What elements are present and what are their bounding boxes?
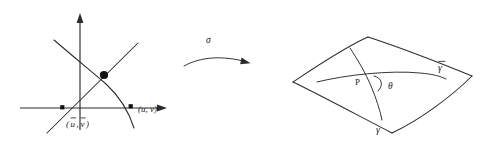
intersection-point (100, 71, 108, 79)
figure-canvas: ( u , v ) (u, v) σ (0, 0, 492, 143)
label-u-v: (u, v) (138, 104, 157, 114)
label-ubar-vbar-second: v (81, 119, 85, 129)
label-ubar-vbar-close: ) (85, 119, 89, 129)
label-ubar-vbar-first: u (70, 119, 75, 129)
label-ubar-vbar-comma: , (77, 119, 79, 129)
patch-edge-top-right (368, 37, 472, 76)
label-gamma-text: γ (376, 124, 381, 135)
patch-edge-bottom-right (392, 76, 472, 133)
parameter-plane: ( u , v ) (u, v) (20, 13, 167, 133)
map-arrow-curve (184, 58, 247, 66)
label-gamma-bar: γ (438, 61, 445, 73)
sigma-map-arrow: σ (184, 35, 251, 66)
curve-ubar-vbar (47, 43, 138, 133)
point-p-label: P (355, 77, 360, 87)
marker-ubar-vbar (60, 105, 64, 109)
label-ubar-vbar-open: ( (66, 119, 70, 129)
label-ubar-vbar: ( u , v ) (66, 118, 89, 129)
map-arrow-head (240, 57, 250, 64)
math-figure: ( u , v ) (u, v) σ (0, 0, 492, 143)
angle-arc (374, 76, 381, 91)
angle-theta-label: θ (388, 81, 393, 91)
vertical-axis (77, 13, 84, 130)
surface-patch: P θ γ γ (293, 37, 472, 135)
marker-u-v (129, 104, 133, 108)
curve-gamma-bar (317, 72, 446, 82)
sigma-label: σ (206, 35, 211, 45)
